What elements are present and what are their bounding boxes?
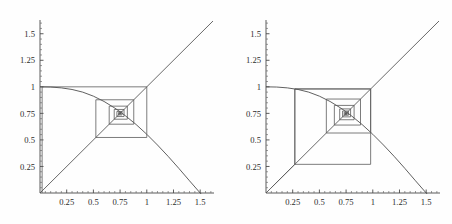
y-tick-label: 1.5 [24, 29, 35, 39]
x-tick-label: 1.5 [421, 197, 432, 207]
x-tick-label: 0.75 [113, 197, 128, 207]
series-group [40, 21, 213, 204]
y-tick-label: 0.5 [250, 135, 261, 145]
right-plot-panel: 0.250.50.7511.251.50.250.50.7511.251.5 [226, 0, 452, 224]
y-tick-label: 1.25 [20, 55, 35, 65]
y-tick-label: 0.75 [20, 109, 35, 119]
x-tick-label: 0.25 [285, 197, 300, 207]
y-tick-label: 0.25 [20, 162, 35, 172]
x-tick-label: 0.25 [59, 197, 74, 207]
y-tick-label: 0.75 [246, 109, 261, 119]
left-plot-panel: 0.250.50.7511.251.50.250.50.7511.251.5 [0, 0, 226, 224]
y-tick-label: 1.5 [250, 29, 261, 39]
map-curve [40, 87, 211, 204]
y-tick-label: 1 [31, 82, 35, 92]
x-tick-label: 1.25 [392, 197, 407, 207]
y-tick-label: 0.25 [246, 162, 261, 172]
x-tick-label: 0.5 [314, 197, 325, 207]
x-tick-label: 1 [371, 197, 375, 207]
y-tick-label: 0.5 [24, 135, 35, 145]
left-plot-canvas: 0.250.50.7511.251.50.250.50.7511.251.5 [0, 0, 226, 224]
map-curve [266, 87, 437, 204]
x-tick-label: 1.5 [195, 197, 206, 207]
x-tick-label: 0.75 [339, 197, 354, 207]
right-plot-canvas: 0.250.50.7511.251.50.250.50.7511.251.5 [226, 0, 452, 224]
series-group [266, 21, 439, 204]
y-tick-label: 1.25 [246, 55, 261, 65]
figure-root: 0.250.50.7511.251.50.250.50.7511.251.5 0… [0, 0, 452, 224]
x-tick-label: 1.25 [166, 197, 181, 207]
y-tick-label: 1 [257, 82, 261, 92]
identity-line [40, 21, 213, 193]
x-tick-label: 0.5 [88, 197, 99, 207]
x-tick-label: 1 [145, 197, 149, 207]
